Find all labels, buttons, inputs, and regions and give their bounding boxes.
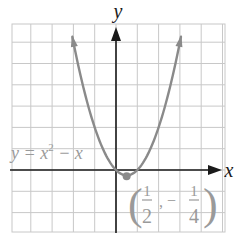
curve-left-arrow-icon — [71, 35, 78, 47]
x-axis-arrow-icon — [208, 165, 222, 175]
vertex-label-num2: 1 — [190, 183, 198, 199]
y-axis-arrow-icon — [111, 27, 121, 41]
vertex-label-num1: 1 — [143, 183, 151, 199]
vertex-label-close-paren: ) — [203, 180, 218, 229]
curve-right-arrow-icon — [176, 35, 183, 47]
parabola-graph: y x y = x2 − x ( 1 2 , − 1 4 ) — [0, 0, 238, 245]
grid-border — [12, 24, 225, 232]
vertex-label-sep: , — [159, 193, 163, 210]
axes — [10, 27, 222, 233]
y-axis-label: y — [112, 0, 123, 23]
vertex-label-open-paren: ( — [128, 180, 143, 229]
vertex-label: ( 1 2 , − 1 4 ) — [128, 180, 218, 229]
x-axis-label: x — [224, 159, 234, 181]
grid-lines — [12, 24, 225, 232]
vertex-label-den1: 2 — [142, 205, 152, 227]
vertex-label-neg: − — [167, 192, 176, 209]
equation-label: y = x2 − x — [9, 141, 83, 163]
vertex-label-den2: 4 — [189, 205, 199, 227]
